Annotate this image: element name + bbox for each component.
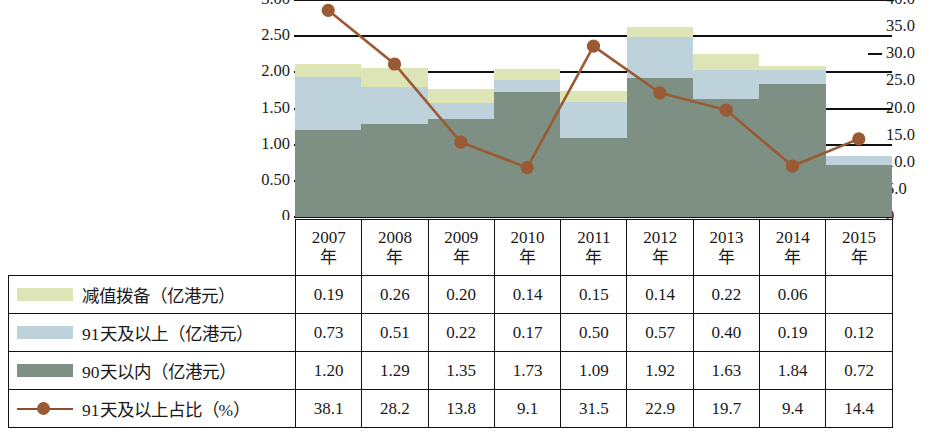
year-number: 2015 xyxy=(826,228,891,247)
bar-segment-within-90-days xyxy=(826,165,892,217)
left-axis-tick-3: 1.50 xyxy=(261,100,290,116)
year-unit: 年 xyxy=(362,248,427,267)
legend-inner: 减值拨备（亿港元） xyxy=(17,282,295,307)
table-cell: 0.72 xyxy=(826,352,892,390)
year-unit: 年 xyxy=(296,248,361,267)
table-cell: 0.20 xyxy=(428,276,494,314)
table-cell: 0.14 xyxy=(494,276,560,314)
year-unit: 年 xyxy=(826,248,891,267)
table-cell: 0.26 xyxy=(362,276,428,314)
year-number: 2009 xyxy=(429,228,494,247)
legend-label: 91天及以上（亿港元） xyxy=(82,320,253,345)
table-cell: 9.4 xyxy=(760,390,826,428)
year-unit: 年 xyxy=(429,248,494,267)
ratio-marker-2007 xyxy=(322,4,335,17)
bar-segment-over-91-days xyxy=(826,156,892,165)
gridline-0 xyxy=(295,0,892,1)
legend-circle-marker-icon xyxy=(37,402,50,415)
table-cell: 14.4 xyxy=(826,390,892,428)
left-axis-tick-1: 2.50 xyxy=(261,27,290,43)
column-header-2012: 2012年 xyxy=(627,220,693,276)
column-header-2009: 2009年 xyxy=(428,220,494,276)
bar-segment-impairment xyxy=(361,68,427,87)
table-row: 91天及以上（亿港元）0.730.510.220.170.500.570.400… xyxy=(9,314,893,352)
bar-segment-over-91-days xyxy=(428,103,494,119)
legend-swatch-icon xyxy=(17,288,73,301)
table-row: 91天及以上占比（%）38.128.213.89.131.522.919.79.… xyxy=(9,390,893,428)
legend-inner: 91天及以上（亿港元） xyxy=(17,320,295,345)
year-unit: 年 xyxy=(495,248,560,267)
year-number: 2014 xyxy=(760,228,825,247)
year-unit: 年 xyxy=(627,248,692,267)
table-cell: 0.06 xyxy=(760,276,826,314)
bar-2007 xyxy=(295,64,361,217)
left-value-axis: 3.002.502.001.501.000.500 xyxy=(238,0,290,230)
data-table: 2007年2008年2009年2010年2011年2012年2013年2014年… xyxy=(8,219,893,428)
plot-area xyxy=(295,0,892,217)
right-percent-axis: 40.035.030.025.020.015.010.05.00 xyxy=(886,0,935,230)
column-header-2008: 2008年 xyxy=(362,220,428,276)
column-header-2011: 2011年 xyxy=(561,220,627,276)
year-number: 2012 xyxy=(627,228,692,247)
left-axis-tick-2: 2.00 xyxy=(261,63,290,79)
table-cell: 0.22 xyxy=(428,314,494,352)
table-cell: 31.5 xyxy=(561,390,627,428)
year-unit: 年 xyxy=(561,248,626,267)
table-cell: 0.17 xyxy=(494,314,560,352)
table-cell: 38.1 xyxy=(296,390,362,428)
table-cell: 0.73 xyxy=(296,314,362,352)
table-cell: 0.51 xyxy=(362,314,428,352)
bar-segment-impairment xyxy=(693,54,759,70)
bar-segment-over-91-days xyxy=(759,70,825,84)
year-number: 2008 xyxy=(362,228,427,247)
table-cell: 0.12 xyxy=(826,314,892,352)
table-cell: 0.14 xyxy=(627,276,693,314)
bar-segment-over-91-days xyxy=(627,37,693,78)
bar-2011 xyxy=(560,91,626,217)
table-cell: 0.22 xyxy=(693,276,759,314)
bar-segment-over-91-days xyxy=(361,87,427,124)
bar-segment-impairment xyxy=(627,27,693,37)
legend-cell-1: 91天及以上（亿港元） xyxy=(9,314,296,352)
legend-cell-0: 减值拨备（亿港元） xyxy=(9,276,296,314)
table-cell: 1.92 xyxy=(627,352,693,390)
table-cell: 19.7 xyxy=(693,390,759,428)
gridline-1 xyxy=(295,35,892,37)
table-row: 90天以内（亿港元）1.201.291.351.731.091.921.631.… xyxy=(9,352,893,390)
table-cell xyxy=(826,276,892,314)
year-unit: 年 xyxy=(760,248,825,267)
bar-segment-within-90-days xyxy=(693,99,759,217)
bar-segment-within-90-days xyxy=(295,130,361,217)
bar-2010 xyxy=(494,69,560,217)
bar-segment-within-90-days xyxy=(361,124,427,217)
bar-2012 xyxy=(627,27,693,217)
left-axis-tick-4: 1.00 xyxy=(261,136,290,152)
bar-2008 xyxy=(361,68,427,217)
ratio-marker-2011 xyxy=(587,40,600,53)
bar-segment-over-91-days xyxy=(560,102,626,138)
legend-label: 减值拨备（亿港元） xyxy=(82,282,235,307)
table-cell: 0.50 xyxy=(561,314,627,352)
bar-segment-within-90-days xyxy=(560,138,626,217)
legend-cell-3: 91天及以上占比（%） xyxy=(9,390,296,428)
table-cell: 0.19 xyxy=(760,314,826,352)
table-cell: 0.19 xyxy=(296,276,362,314)
legend-cell-2: 90天以内（亿港元） xyxy=(9,352,296,390)
year-unit: 年 xyxy=(694,248,759,267)
bar-segment-impairment xyxy=(295,64,361,78)
bar-segment-impairment xyxy=(494,69,560,79)
bar-segment-over-91-days xyxy=(494,80,560,92)
year-number: 2013 xyxy=(694,228,759,247)
year-number: 2007 xyxy=(296,228,361,247)
table-cell: 13.8 xyxy=(428,390,494,428)
table-header-row: 2007年2008年2009年2010年2011年2012年2013年2014年… xyxy=(9,220,893,276)
table-cell: 9.1 xyxy=(494,390,560,428)
bar-2014 xyxy=(759,66,825,217)
bar-segment-within-90-days xyxy=(627,78,693,217)
year-number: 2011 xyxy=(561,228,626,247)
legend-inner: 90天以内（亿港元） xyxy=(17,358,295,383)
table-cell: 1.35 xyxy=(428,352,494,390)
column-header-2010: 2010年 xyxy=(494,220,560,276)
bar-segment-impairment xyxy=(428,89,494,103)
table-cell: 1.29 xyxy=(362,352,428,390)
